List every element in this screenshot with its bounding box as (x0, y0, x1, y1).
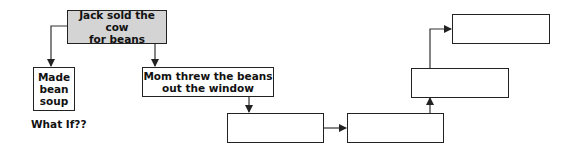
node-soup-line2: bean (39, 83, 68, 95)
arrow-start-to-soup (51, 26, 67, 66)
node-blank1 (227, 113, 324, 143)
node-blank3 (411, 68, 509, 98)
node-mom-line2: out the window (162, 82, 254, 94)
arrow-blank3-to-blank4 (430, 29, 451, 68)
node-start: Jack sold the cow for beans (67, 10, 167, 44)
node-blank2 (347, 113, 444, 143)
what-if-annotation: What If?? (31, 118, 86, 130)
node-soup-line3: soup (40, 95, 68, 107)
node-start-line2: for beans (89, 33, 145, 45)
node-soup-line1: Made (38, 71, 70, 83)
node-mom-line1: Mom threw the beans (143, 70, 272, 82)
node-soup: Made bean soup (33, 67, 75, 111)
node-blank4 (452, 14, 550, 44)
node-start-line1: Jack sold the cow (68, 9, 166, 33)
node-mom: Mom threw the beans out the window (142, 67, 274, 97)
